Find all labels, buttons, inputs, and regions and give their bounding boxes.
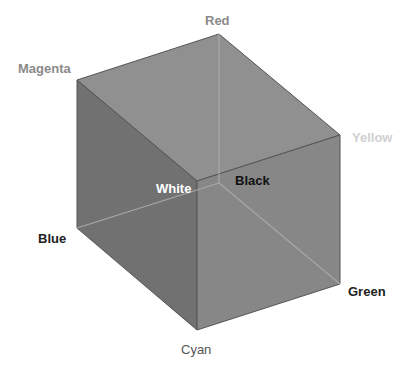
cube-graphic [0,0,411,376]
label-black: Black [235,174,270,187]
color-cube-diagram: Red Magenta Yellow White Black Blue Gree… [0,0,411,376]
label-green: Green [348,285,386,298]
label-white: White [156,182,191,195]
label-blue: Blue [38,232,66,245]
label-magenta: Magenta [18,62,71,75]
label-cyan: Cyan [181,343,211,356]
label-red: Red [205,14,230,27]
label-yellow: Yellow [352,131,392,144]
